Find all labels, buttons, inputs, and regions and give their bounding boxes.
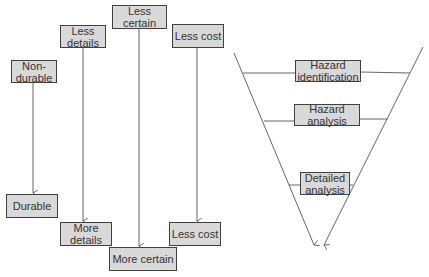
box-more-details: More details — [60, 222, 112, 246]
box-less-cost-top: Less cost — [172, 24, 224, 48]
box-hazard-analysis: Hazard analysis — [294, 104, 360, 126]
box-more-certain: More certain — [109, 247, 177, 271]
box-less-certain: Less certain — [112, 5, 167, 29]
box-less-cost-bottom: Less cost — [169, 222, 221, 246]
box-durable: Durable — [6, 194, 58, 218]
box-less-details: Less details — [60, 25, 106, 48]
box-hazard-identification: Hazard identification — [295, 60, 361, 82]
box-non-durable: Non-durable — [11, 60, 57, 83]
box-detailed-analysis: Detailed analysis — [300, 172, 350, 195]
